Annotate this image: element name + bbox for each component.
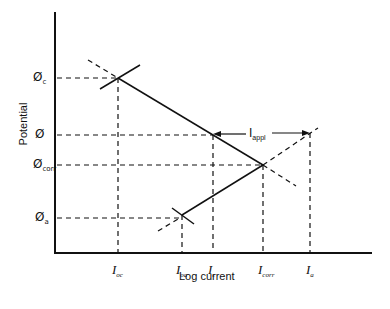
anodic-extension-lower <box>158 219 178 231</box>
anodic-line <box>182 165 263 215</box>
tick-i-c: Ic <box>208 262 215 278</box>
tick-i-corr: Icorr <box>258 262 274 278</box>
cathodic-extension-lower <box>263 165 296 186</box>
cathodic-extension-upper <box>88 60 118 78</box>
tick-i-a: Ia <box>306 262 314 278</box>
polarization-diagram <box>0 0 390 309</box>
i-appl-label: Iappl <box>249 126 266 140</box>
cathodic-line <box>118 78 263 165</box>
arrowhead-right-icon <box>302 130 310 136</box>
cross-mark-c <box>100 65 140 89</box>
x-axis-label: Log current <box>179 270 235 282</box>
tick-phi-corr: Øcorr <box>33 157 56 171</box>
tick-i-oa: Ioa <box>176 262 187 278</box>
tick-i-oc: Ioc <box>112 262 123 278</box>
tick-phi: Ø <box>35 127 44 141</box>
y-axis-label: Potential <box>17 99 29 149</box>
tick-phi-c: Øc <box>33 70 46 84</box>
tick-phi-a: Øa <box>35 210 49 224</box>
